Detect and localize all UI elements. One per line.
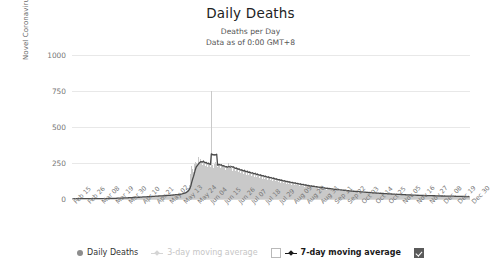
circle-marker-icon [77, 250, 83, 256]
legend-label-seven-day-average: 7-day moving average [301, 249, 401, 257]
legend-item-three-day-average[interactable]: 3-day moving average [151, 249, 257, 257]
seven-day-checkbox-left[interactable] [271, 248, 281, 258]
y-axis-ticks: 10007505002500 [18, 0, 66, 271]
y-tick-label: 1000 [26, 51, 66, 60]
daily-deaths-chart: Daily Deaths Deaths per Day Data as of 0… [0, 0, 501, 271]
chart-subtitle: Deaths per Day Data as of 0:00 GMT+8 [0, 27, 501, 48]
subtitle-line-2: Data as of 0:00 GMT+8 [0, 38, 501, 49]
line-marker-icon [285, 250, 297, 257]
legend-label-three-day-average: 3-day moving average [167, 249, 257, 257]
x-axis-ticks: Feb 15Feb 26Mar 08Mar 19Mar 30Apr 10Apr … [72, 200, 470, 230]
y-tick-label: 250 [26, 159, 66, 168]
subtitle-line-1: Deaths per Day [0, 27, 501, 38]
seven-day-checkbox-right[interactable] [414, 248, 424, 258]
legend-label-daily-deaths: Daily Deaths [87, 249, 138, 257]
seven-day-average-line [72, 55, 470, 199]
y-tick-label: 0 [26, 195, 66, 204]
chart-legend: Daily Deaths 3-day moving average 7-day … [0, 243, 501, 263]
line-marker-icon [151, 250, 163, 257]
plot-area [72, 55, 470, 199]
y-tick-label: 750 [26, 87, 66, 96]
legend-item-daily-deaths[interactable]: Daily Deaths [77, 249, 138, 257]
chart-title: Daily Deaths [0, 5, 501, 21]
y-tick-label: 500 [26, 123, 66, 132]
legend-item-seven-day-average[interactable]: 7-day moving average [271, 248, 401, 258]
